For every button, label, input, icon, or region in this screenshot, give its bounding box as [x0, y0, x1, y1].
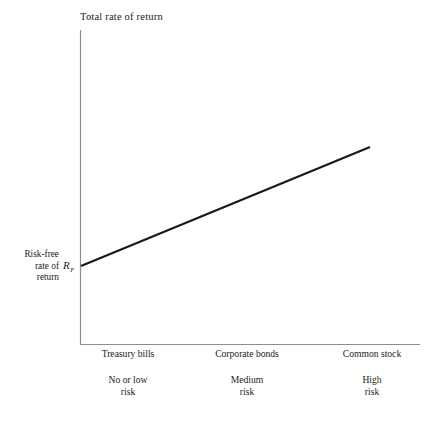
x-risk-label-treasury-bills-line2: risk [68, 386, 188, 398]
x-risk-label-corporate-bonds-line2: risk [187, 386, 307, 398]
x-category-label-treasury-bills: Treasury bills [68, 348, 188, 360]
risk-return-chart: Total rate of return Risk-free rate of r… [0, 0, 433, 421]
x-category-label-corporate-bonds: Corporate bonds [187, 348, 307, 360]
risk-free-rate-label-line3: return [2, 272, 59, 284]
risk-return-trend-line [81, 147, 370, 266]
risk-free-rate-label-line1: Risk-free [2, 249, 59, 261]
risk-free-rate-symbol-letter: R [63, 259, 70, 271]
risk-free-rate-label: Risk-free rate of return [2, 249, 59, 284]
x-risk-label-corporate-bonds-line1: Medium [187, 374, 307, 386]
x-risk-label-treasury-bills: No or low risk [68, 374, 188, 397]
risk-free-rate-symbol: RF [63, 259, 74, 271]
x-risk-label-corporate-bonds: Medium risk [187, 374, 307, 397]
x-category-label-common-stock: Common stock [312, 348, 432, 360]
x-risk-label-common-stock-line1: High [312, 374, 432, 386]
x-risk-label-common-stock-line2: risk [312, 386, 432, 398]
risk-free-rate-label-line2: rate of [2, 261, 59, 273]
risk-free-rate-symbol-subscript: F [70, 266, 74, 273]
x-risk-label-treasury-bills-line1: No or low [68, 374, 188, 386]
x-risk-label-common-stock: High risk [312, 374, 432, 397]
